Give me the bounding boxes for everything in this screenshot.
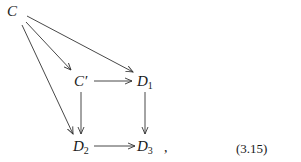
arrow-c-to-cprime <box>26 22 71 70</box>
node-d2: D2 <box>73 139 89 156</box>
arrow-c-to-d1 <box>27 16 133 72</box>
node-c-prime: C′ <box>74 74 87 89</box>
node-d2-label: D <box>73 138 84 154</box>
node-d2-subscript: 2 <box>84 145 89 156</box>
arrow-c-to-d2 <box>22 25 73 134</box>
node-d1: D1 <box>137 74 153 91</box>
node-c-label: C <box>7 3 17 19</box>
node-c-prime-label: C′ <box>74 73 87 89</box>
node-d3: D3 <box>137 139 153 156</box>
equation-number: (3.15) <box>236 142 267 155</box>
node-c: C <box>7 4 17 19</box>
node-d1-label: D <box>137 73 148 89</box>
trailing-comma: , <box>164 141 168 155</box>
node-d3-subscript: 3 <box>148 145 153 156</box>
node-d1-subscript: 1 <box>148 80 153 91</box>
node-d3-label: D <box>137 138 148 154</box>
